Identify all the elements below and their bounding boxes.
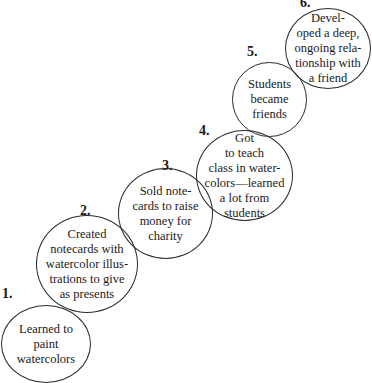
step-1-circle: Learned to paint watercolors — [1, 305, 91, 383]
step-6-number: 6. — [300, 0, 311, 10]
step-5-number: 5. — [247, 45, 258, 59]
step-1-number: 1. — [2, 287, 13, 301]
step-3-text: Sold note- cards to raise money for char… — [133, 184, 199, 244]
step-4-text: Got to teach class in water- colors—lear… — [205, 131, 285, 221]
step-1-text: Learned to paint watercolors — [17, 322, 75, 367]
step-5-text: Students became friends — [248, 77, 291, 122]
step-6-circle: Devel- oped a deep, ongoing rela- tionsh… — [285, 8, 371, 89]
stepping-stone-diagram: 1. Learned to paint watercolors 2. Creat… — [0, 0, 372, 383]
step-2-text: Created notecards with watercolor illus-… — [46, 227, 128, 302]
step-6-text: Devel- oped a deep, ongoing rela- tionsh… — [295, 11, 362, 86]
step-4-circle: Got to teach class in water- colors—lear… — [196, 130, 293, 221]
